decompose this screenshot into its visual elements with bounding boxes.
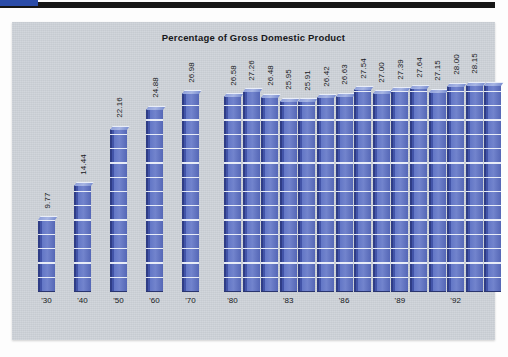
bar-top-face — [280, 98, 300, 102]
bar-segment-lines — [38, 219, 55, 291]
bar-body — [317, 98, 334, 292]
bar-y90[interactable]: 27.64 — [410, 56, 427, 292]
bar-segment-lines — [224, 96, 241, 291]
bar-top-face — [336, 93, 356, 97]
bar-front-face — [146, 109, 163, 292]
bar-y89[interactable]: 27.39 — [391, 56, 408, 292]
x-tick-label: '86 — [339, 296, 350, 305]
bar-body — [447, 87, 464, 292]
bar-value-label: 25.91 — [302, 70, 311, 91]
bar-value-label: 27.54 — [358, 58, 367, 79]
bar-body — [429, 93, 446, 292]
bar-body — [243, 92, 260, 292]
bar-value-label: 26.42 — [321, 66, 330, 87]
bar-top-face — [317, 94, 337, 98]
bar-body — [391, 91, 408, 292]
bar-front-face — [298, 101, 315, 292]
bar-top-face — [243, 88, 263, 92]
bar-front-face — [74, 185, 91, 292]
bar-y70[interactable]: 26.98 — [182, 56, 199, 292]
bar-segment-lines — [466, 85, 483, 291]
bar-y50[interactable]: 22.16 — [110, 56, 127, 292]
bar-value-label: 26.98 — [186, 62, 195, 83]
bar-top-face — [110, 126, 130, 130]
bar-top-face — [146, 106, 166, 110]
bar-front-face — [110, 129, 127, 293]
x-tick-label: '89 — [395, 296, 406, 305]
bar-front-face — [391, 90, 408, 292]
bar-y91[interactable]: 27.15 — [429, 56, 446, 292]
bar-y82[interactable]: 26.48 — [261, 56, 278, 292]
bar-value-label: 14.44 — [78, 154, 87, 175]
bar-y80[interactable]: 26.58 — [224, 56, 241, 292]
chart-title: Percentage of Gross Domestic Product — [12, 32, 495, 43]
bar-front-face — [280, 101, 297, 292]
bar-value-label: 27.26 — [247, 60, 256, 81]
bar-body — [74, 186, 91, 292]
bar-y92[interactable]: 28.00 — [447, 56, 464, 292]
x-tick-label: '50 — [113, 296, 124, 305]
bar-y84[interactable]: 25.91 — [298, 56, 315, 292]
bar-body — [38, 220, 55, 292]
bar-y40[interactable]: 14.44 — [74, 56, 91, 292]
x-tick-label: '92 — [450, 296, 461, 305]
bar-front-face — [182, 93, 199, 292]
bar-front-face — [447, 86, 464, 292]
bar-front-face — [429, 92, 446, 292]
bar-value-label: 27.15 — [433, 61, 442, 82]
bar-front-face — [38, 219, 55, 292]
bar-top-face — [224, 93, 244, 97]
x-tick-label: '70 — [185, 296, 196, 305]
bar-segment-lines — [429, 92, 446, 291]
bar-body — [280, 102, 297, 292]
bar-front-face — [373, 93, 390, 292]
bar-body — [354, 90, 371, 292]
bar-body — [336, 97, 353, 292]
x-tick-label: '40 — [77, 296, 88, 305]
bar-segment-lines — [447, 86, 464, 291]
bar-front-face — [261, 97, 278, 292]
bar-value-label: 28.15 — [470, 53, 479, 74]
bar-value-label: 25.95 — [284, 69, 293, 90]
figure: Percentage of Gross Domestic Product 9.7… — [0, 0, 508, 357]
bar-body — [182, 94, 199, 292]
header-rule — [0, 2, 495, 8]
bar-y30[interactable]: 9.77 — [38, 56, 55, 292]
bar-top-face — [373, 90, 393, 94]
bar-value-label: 28.00 — [451, 54, 460, 75]
chart-panel: Percentage of Gross Domestic Product 9.7… — [12, 22, 495, 340]
bar-top-face — [391, 87, 411, 91]
bar-value-label: 22.16 — [114, 97, 123, 118]
bar-y83[interactable]: 25.95 — [280, 56, 297, 292]
bar-y88[interactable]: 27.00 — [373, 56, 390, 292]
bar-body — [466, 86, 483, 292]
bar-front-face — [484, 85, 501, 292]
bar-segment-lines — [336, 96, 353, 291]
bar-y94[interactable] — [484, 56, 501, 292]
bar-front-face — [466, 85, 483, 292]
bar-front-face — [317, 97, 334, 292]
bar-segment-lines — [261, 97, 278, 291]
bar-segment-lines — [484, 85, 501, 291]
bar-top-face — [466, 82, 486, 86]
bar-y85[interactable]: 26.42 — [317, 56, 334, 292]
bar-value-label: 27.64 — [414, 57, 423, 78]
bar-y87[interactable]: 27.54 — [354, 56, 371, 292]
bar-segment-lines — [373, 93, 390, 291]
bar-body — [484, 86, 501, 292]
bar-value-label: 26.48 — [265, 66, 274, 87]
x-tick-label: '80 — [227, 296, 238, 305]
bar-value-label: 26.63 — [340, 64, 349, 85]
bar-body — [298, 102, 315, 292]
bar-segment-lines — [243, 91, 260, 291]
bar-segment-lines — [317, 97, 334, 291]
x-tick-label: '30 — [41, 296, 52, 305]
x-tick-label: '60 — [149, 296, 160, 305]
bar-front-face — [224, 96, 241, 292]
bar-top-face — [298, 98, 318, 102]
bar-y60[interactable]: 24.88 — [146, 56, 163, 292]
bar-y86[interactable]: 26.63 — [336, 56, 353, 292]
bar-y81[interactable]: 27.26 — [243, 56, 260, 292]
bar-y93[interactable]: 28.15 — [466, 56, 483, 292]
header-accent-block — [0, 0, 38, 6]
